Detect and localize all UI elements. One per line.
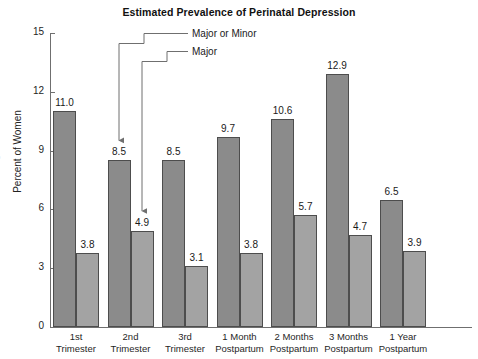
bar-major-or-minor-5[interactable] [326,74,349,327]
bar-value-label: 9.7 [209,123,248,134]
bar-major-or-minor-0[interactable] [53,111,76,327]
bar-value-label: 3.9 [395,237,434,248]
x-axis-label-line: 1 Year [363,331,443,343]
bar-value-label: 11.0 [45,97,84,108]
x-axis-group-label-6: 1 YearPostpartum [363,331,443,354]
bar-major-3[interactable] [240,253,263,327]
x-axis-label-line: Postpartum [363,343,443,355]
bar-value-label: 10.6 [263,105,302,116]
bar-value-label: 5.7 [286,201,325,212]
bar-major-4[interactable] [294,215,317,327]
bar-value-label: 4.7 [341,221,380,232]
bar-major-0[interactable] [76,253,99,327]
callout-label-major-or-minor: Major or Minor [192,28,256,39]
bar-major-1[interactable] [131,231,154,327]
bar-value-label: 6.5 [372,186,411,197]
bar-value-label: 8.5 [154,146,193,157]
bar-value-label: 3.8 [232,239,271,250]
bar-major-6[interactable] [403,251,426,327]
bar-major-or-minor-1[interactable] [108,160,131,327]
bar-value-label: 4.9 [123,217,162,228]
bar-value-label: 3.1 [177,252,216,263]
bars-layer: 11.03.88.54.98.53.19.73.810.65.712.94.76… [0,0,478,359]
callout-label-major: Major [192,46,217,57]
bar-major-5[interactable] [349,235,372,327]
bar-value-label: 12.9 [318,60,357,71]
bar-value-label: 8.5 [100,146,139,157]
chart-root: Estimated Prevalence of Perinatal Depres… [0,0,478,359]
bar-major-or-minor-4[interactable] [271,119,294,327]
bar-value-label: 3.8 [68,239,107,250]
bar-major-or-minor-6[interactable] [380,200,403,327]
bar-major-2[interactable] [185,266,208,327]
bar-major-or-minor-3[interactable] [217,137,240,327]
bar-major-or-minor-2[interactable] [162,160,185,327]
